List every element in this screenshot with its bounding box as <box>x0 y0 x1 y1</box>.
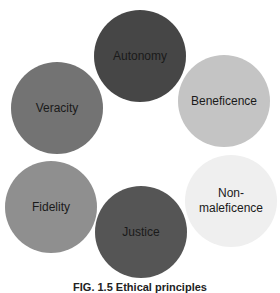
circle-label: Beneficence <box>191 94 257 109</box>
circle-label: Autonomy <box>113 49 167 64</box>
circle-autonomy: Autonomy <box>94 10 186 102</box>
circle-label: Fidelity <box>32 200 70 215</box>
circle-non-maleficence: Non- maleficence <box>185 155 277 247</box>
circle-fidelity: Fidelity <box>5 161 97 253</box>
circle-label: Veracity <box>36 101 79 116</box>
circle-label: Non- maleficence <box>199 186 263 216</box>
circle-label: Justice <box>122 225 159 240</box>
figure-caption: FIG. 1.5 Ethical principles <box>0 281 280 293</box>
circle-beneficence: Beneficence <box>178 55 270 147</box>
circle-justice: Justice <box>95 186 187 278</box>
circle-veracity: Veracity <box>11 62 103 154</box>
